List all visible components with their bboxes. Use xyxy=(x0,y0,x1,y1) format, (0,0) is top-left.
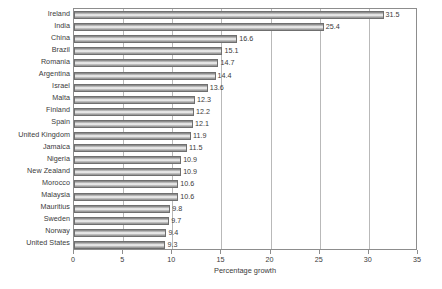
x-tick-label: 0 xyxy=(71,255,75,264)
category-label: Argentina xyxy=(0,70,70,78)
x-tick xyxy=(368,250,369,254)
category-label: Morocco xyxy=(0,179,70,187)
bar-row: 9.4 xyxy=(74,227,418,239)
bar-value-label: 9.4 xyxy=(168,228,178,238)
bar[interactable] xyxy=(74,144,187,152)
bar[interactable] xyxy=(74,96,195,104)
x-tick xyxy=(122,250,123,254)
category-label: United Kingdom xyxy=(0,131,70,139)
bar[interactable] xyxy=(74,23,324,31)
bar-row: 10.6 xyxy=(74,191,418,203)
category-label: Brazil xyxy=(0,46,70,54)
x-tick xyxy=(319,250,320,254)
plot-area: 31.525.416.615.114.714.413.612.312.212.1… xyxy=(73,8,417,250)
bar-value-label: 10.9 xyxy=(183,155,197,165)
bar-value-label: 9.3 xyxy=(167,240,177,250)
bar[interactable] xyxy=(74,229,166,237)
bar[interactable] xyxy=(74,120,193,128)
bar[interactable] xyxy=(74,156,181,164)
bar[interactable] xyxy=(74,108,194,116)
category-label: Mauritius xyxy=(0,203,70,211)
bar-row: 14.4 xyxy=(74,70,418,82)
bar-value-label: 10.9 xyxy=(183,167,197,177)
bar-row: 12.2 xyxy=(74,106,418,118)
bar[interactable] xyxy=(74,72,216,80)
bar[interactable] xyxy=(74,84,208,92)
bar-value-label: 14.7 xyxy=(220,58,234,68)
bar-chart-figure: IrelandIndiaChinaBrazilRomaniaArgentinaI… xyxy=(0,0,442,289)
bar-row: 14.7 xyxy=(74,57,418,69)
category-label: Israel xyxy=(0,82,70,90)
bar-value-label: 10.6 xyxy=(180,179,194,189)
bar-value-label: 16.6 xyxy=(239,34,253,44)
bar-row: 12.1 xyxy=(74,118,418,130)
bar-value-label: 10.6 xyxy=(180,192,194,202)
bar[interactable] xyxy=(74,180,178,188)
category-axis: IrelandIndiaChinaBrazilRomaniaArgentinaI… xyxy=(0,8,70,250)
bar[interactable] xyxy=(74,217,169,225)
x-tick xyxy=(270,250,271,254)
x-tick-label: 35 xyxy=(413,255,421,264)
x-tick-label: 15 xyxy=(216,255,224,264)
bar[interactable] xyxy=(74,132,191,140)
bar-value-label: 14.4 xyxy=(218,71,232,81)
bar-row: 9.7 xyxy=(74,215,418,227)
bar-row: 10.9 xyxy=(74,166,418,178)
bar-row: 10.6 xyxy=(74,178,418,190)
bar-row: 31.5 xyxy=(74,9,418,21)
bar[interactable] xyxy=(74,47,222,55)
bar-row: 11.5 xyxy=(74,142,418,154)
x-tick-label: 25 xyxy=(315,255,323,264)
bar-value-label: 31.5 xyxy=(386,10,400,20)
bar-value-label: 9.8 xyxy=(172,204,182,214)
bar[interactable] xyxy=(74,11,384,19)
category-label: India xyxy=(0,22,70,30)
category-label: Jamaica xyxy=(0,143,70,151)
bars-layer: 31.525.416.615.114.714.413.612.312.212.1… xyxy=(74,9,416,249)
bar[interactable] xyxy=(74,59,218,67)
category-label: Romania xyxy=(0,58,70,66)
x-tick-label: 5 xyxy=(120,255,124,264)
bar-row: 16.6 xyxy=(74,33,418,45)
category-label: New Zealand xyxy=(0,167,70,175)
category-label: Malaysia xyxy=(0,191,70,199)
bar[interactable] xyxy=(74,205,170,213)
bar-value-label: 25.4 xyxy=(326,22,340,32)
bar-row: 9.8 xyxy=(74,203,418,215)
x-tick-label: 30 xyxy=(364,255,372,264)
bar-row: 11.9 xyxy=(74,130,418,142)
bar[interactable] xyxy=(74,168,181,176)
category-label: China xyxy=(0,34,70,42)
category-label: Nigeria xyxy=(0,155,70,163)
category-label: Finland xyxy=(0,106,70,114)
bar-value-label: 12.3 xyxy=(197,95,211,105)
bar-row: 25.4 xyxy=(74,21,418,33)
category-label: Ireland xyxy=(0,10,70,18)
x-tick xyxy=(73,250,74,254)
category-label: Norway xyxy=(0,227,70,235)
bar-value-label: 15.1 xyxy=(224,46,238,56)
bar-row: 10.9 xyxy=(74,154,418,166)
bar-value-label: 12.2 xyxy=(196,107,210,117)
bar-value-label: 13.6 xyxy=(210,83,224,93)
bar-value-label: 11.9 xyxy=(193,131,206,141)
category-label: United States xyxy=(0,239,70,247)
x-tick-label: 20 xyxy=(266,255,274,264)
bar[interactable] xyxy=(74,193,178,201)
bar-value-label: 9.7 xyxy=(171,216,181,226)
x-tick-label: 10 xyxy=(167,255,175,264)
x-axis-title: Percentage growth xyxy=(73,266,417,275)
category-label: Spain xyxy=(0,118,70,126)
bar[interactable] xyxy=(74,241,165,249)
category-label: Malta xyxy=(0,94,70,102)
bar-row: 12.3 xyxy=(74,94,418,106)
category-label: Sweden xyxy=(0,215,70,223)
bar-row: 15.1 xyxy=(74,45,418,57)
bar-row: 13.6 xyxy=(74,82,418,94)
bar-value-label: 11.5 xyxy=(189,143,202,153)
x-tick xyxy=(171,250,172,254)
x-tick xyxy=(220,250,221,254)
bar[interactable] xyxy=(74,35,237,43)
bar-value-label: 12.1 xyxy=(195,119,209,129)
x-tick xyxy=(417,250,418,254)
